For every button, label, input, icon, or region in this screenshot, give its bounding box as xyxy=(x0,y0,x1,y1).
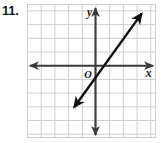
coordinate-plane-svg: y x O xyxy=(27,4,156,138)
origin-label: O xyxy=(84,69,92,80)
x-axis-label: x xyxy=(145,67,152,79)
y-axis-label: y xyxy=(85,6,93,19)
graph-figure: 11. xyxy=(0,0,161,143)
coordinate-grid: y x O xyxy=(27,4,156,138)
problem-number-label: 11. xyxy=(2,4,18,17)
